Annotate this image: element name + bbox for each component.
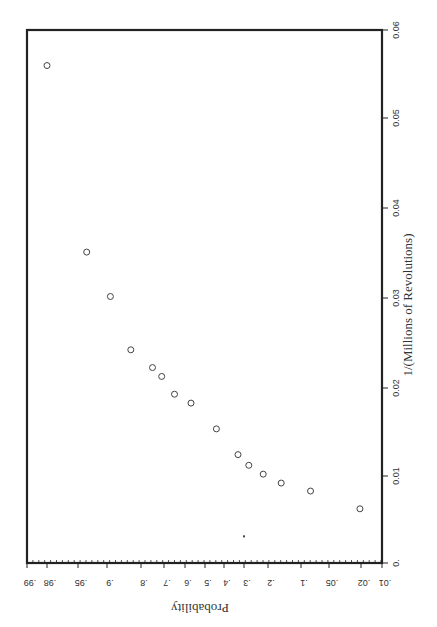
- probability-tick-label: .02: [358, 578, 371, 588]
- data-point: [246, 462, 252, 468]
- data-point: [188, 400, 194, 406]
- data-point: [44, 63, 50, 69]
- probability-tick-label: .7: [163, 578, 171, 588]
- probability-tick-label: .8: [140, 578, 148, 588]
- chart: .99.98.95.9.8.7.6.5.4.3.2.1.05.02.01 0.0…: [0, 0, 437, 627]
- data-point: [213, 426, 219, 432]
- probability-tick-label: .95: [75, 578, 88, 588]
- revolutions-tick-label: 0.06: [391, 21, 401, 39]
- probability-tick-label: .9: [106, 578, 114, 588]
- y-axis-title: Probability: [171, 601, 229, 616]
- x-axis-title: 1/(Millions of Revolutions): [400, 234, 415, 377]
- data-point: [159, 373, 165, 379]
- probability-tick-label: .5: [204, 578, 212, 588]
- data-points: [44, 63, 363, 538]
- probability-tick-label: .4: [223, 578, 231, 588]
- probability-tick-label: .99: [24, 578, 37, 588]
- probability-tick-label: .3: [243, 578, 251, 588]
- probability-tick-label: .05: [326, 578, 339, 588]
- revolutions-tick-label: 0.05: [391, 109, 401, 127]
- data-point: [260, 471, 266, 477]
- probability-tick-label: .01: [379, 578, 392, 588]
- data-point: [172, 391, 178, 397]
- data-point: [235, 452, 241, 458]
- data-point: [308, 488, 314, 494]
- plot-frame: [27, 30, 382, 563]
- revolutions-tick-label: 0.01: [391, 467, 401, 485]
- revolutions-tick-label: 0.02: [391, 379, 401, 397]
- revolutions-tick-label: 0.: [391, 559, 401, 567]
- data-point: [84, 249, 90, 255]
- revolutions-axis: 0.0.010.020.030.040.050.06: [382, 21, 401, 567]
- data-point: [107, 294, 113, 300]
- probability-tick-label: .6: [184, 578, 192, 588]
- probability-tick-label: .1: [300, 578, 308, 588]
- plot-border: [27, 30, 382, 563]
- dot-marker: [243, 535, 245, 537]
- data-point: [150, 365, 156, 371]
- probability-tick-label: .98: [44, 578, 57, 588]
- probability-axis: .99.98.95.9.8.7.6.5.4.3.2.1.05.02.01: [24, 560, 392, 588]
- probability-tick-label: .2: [267, 578, 275, 588]
- data-point: [278, 480, 284, 486]
- revolutions-tick-label: 0.04: [391, 199, 401, 217]
- data-point: [128, 347, 134, 353]
- data-point: [357, 506, 363, 512]
